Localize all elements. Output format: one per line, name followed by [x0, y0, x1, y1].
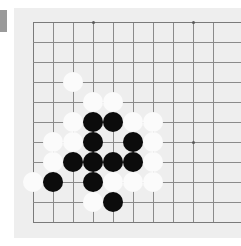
white-stone[interactable]: [143, 172, 163, 192]
white-stone[interactable]: [143, 112, 163, 132]
black-stone[interactable]: [123, 152, 143, 172]
white-stone[interactable]: [83, 192, 103, 212]
board-surface[interactable]: [14, 8, 241, 238]
white-stone[interactable]: [143, 132, 163, 152]
black-stone[interactable]: [83, 112, 103, 132]
white-stone[interactable]: [123, 112, 143, 132]
left-edge-marker: [0, 10, 7, 32]
white-stone[interactable]: [63, 112, 83, 132]
white-stone[interactable]: [63, 72, 83, 92]
white-stone[interactable]: [23, 172, 43, 192]
white-stone[interactable]: [103, 172, 123, 192]
white-stone[interactable]: [43, 132, 63, 152]
stone-layer: [14, 8, 241, 238]
black-stone[interactable]: [103, 152, 123, 172]
board-panel: [14, 8, 241, 238]
go-board-screenshot: [0, 0, 241, 246]
white-stone[interactable]: [43, 152, 63, 172]
black-stone[interactable]: [83, 152, 103, 172]
black-stone[interactable]: [103, 192, 123, 212]
white-stone[interactable]: [123, 172, 143, 192]
black-stone[interactable]: [43, 172, 63, 192]
black-stone[interactable]: [103, 112, 123, 132]
black-stone[interactable]: [83, 132, 103, 152]
white-stone[interactable]: [103, 92, 123, 112]
white-stone[interactable]: [143, 152, 163, 172]
black-stone[interactable]: [83, 172, 103, 192]
white-stone[interactable]: [83, 92, 103, 112]
black-stone[interactable]: [123, 132, 143, 152]
white-stone[interactable]: [63, 132, 83, 152]
black-stone[interactable]: [63, 152, 83, 172]
